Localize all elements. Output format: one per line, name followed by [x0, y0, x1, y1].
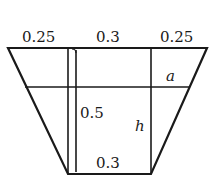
label-freeboard-a: a: [166, 67, 175, 85]
label-depth: 0.5: [80, 104, 104, 122]
label-top-left-width: 0.25: [22, 28, 55, 46]
trapezoid-channel-diagram: 0.25 0.3 0.25 a 0.5 h 0.3: [0, 0, 215, 188]
label-top-right-width: 0.25: [160, 28, 193, 46]
label-water-height-h: h: [135, 117, 145, 135]
label-bottom-width: 0.3: [96, 154, 120, 172]
label-top-middle-width: 0.3: [96, 28, 120, 46]
dimension-tick: [72, 49, 76, 53]
